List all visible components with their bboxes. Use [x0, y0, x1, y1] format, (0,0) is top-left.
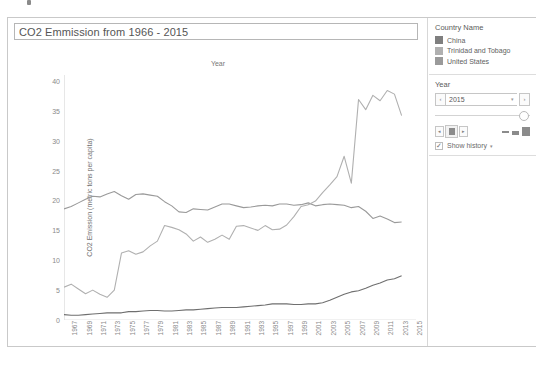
legend-item-label: China — [447, 37, 465, 44]
x-tick-label: 2009 — [373, 321, 380, 335]
x-tick-label: 1977 — [143, 321, 150, 335]
chart-title-bar[interactable]: CO2 Emmission from 1966 - 2015 — [14, 23, 418, 40]
y-tick-label: 35 — [52, 107, 60, 114]
stray-mark — [27, 0, 31, 5]
x-tick-label: 1979 — [157, 321, 164, 335]
series-line-united-states — [64, 192, 402, 223]
x-tick-label: 1985 — [200, 321, 207, 335]
plot-area: 0510152025303540 — [64, 75, 416, 320]
y-tick-label: 10 — [52, 257, 60, 264]
page-title: CO2 Emmission from 1966 - 2015 — [19, 26, 188, 38]
speed-fast-icon[interactable] — [522, 127, 530, 136]
x-tick-label: 1983 — [186, 321, 193, 335]
year-value: 2015 — [449, 96, 465, 103]
x-tick-label: 1991 — [244, 321, 251, 335]
legend-item[interactable]: United States — [435, 57, 530, 65]
y-tick-label: 0 — [56, 317, 60, 324]
x-tick-label: 1999 — [301, 321, 308, 335]
legend-item-label: United States — [447, 58, 489, 65]
x-tick-label: 2003 — [330, 321, 337, 335]
x-tick-label: 2007 — [359, 321, 366, 335]
slider-handle[interactable] — [519, 111, 529, 121]
y-tick-label: 20 — [52, 197, 60, 204]
x-tick-label: 2015 — [416, 321, 423, 335]
x-tick-label: 1967 — [71, 321, 78, 335]
x-tick-label: 1973 — [114, 321, 121, 335]
speed-medium-icon[interactable] — [512, 131, 519, 135]
side-panel: Country Name ChinaTrinidad and TobagoUni… — [429, 18, 536, 346]
year-filter-title: Year — [435, 80, 530, 89]
legend-item[interactable]: Trinidad and Tobago — [435, 47, 530, 55]
playback-buttons: ◂ ▸ — [435, 125, 468, 138]
year-selector[interactable]: ‹ 2015 ▾ › — [435, 93, 530, 106]
x-tick-label: 1981 — [172, 321, 179, 335]
x-tick-label: 2001 — [315, 321, 322, 335]
chart-panel: CO2 Emmission from 1966 - 2015 Year CO2 … — [8, 18, 428, 346]
x-tick-label: 1989 — [229, 321, 236, 335]
year-filter-card: Year ‹ 2015 ▾ › ◂ ▸ — [429, 75, 536, 156]
x-axis-title: Year — [8, 60, 428, 67]
legend-item-label: Trinidad and Tobago — [447, 47, 510, 54]
legend-items: ChinaTrinidad and TobagoUnited States — [435, 36, 530, 65]
y-tick-label: 25 — [52, 167, 60, 174]
year-prev-button[interactable]: ‹ — [435, 93, 446, 106]
x-tick-label: 1987 — [215, 321, 222, 335]
line-chart-svg — [64, 75, 416, 320]
x-tick-label: 1995 — [272, 321, 279, 335]
x-tick-label: 2005 — [344, 321, 351, 335]
y-tick-label: 30 — [52, 137, 60, 144]
show-history-caret-icon: ▾ — [490, 143, 493, 149]
series-line-china — [64, 276, 402, 315]
y-tick-label: 40 — [52, 77, 60, 84]
legend-title: Country Name — [435, 23, 530, 32]
x-tick-label: 1997 — [287, 321, 294, 335]
legend-item[interactable]: China — [435, 36, 530, 44]
series-line-trinidad-and-tobago — [64, 91, 402, 298]
step-back-button[interactable]: ◂ — [435, 126, 444, 137]
legend-swatch — [435, 57, 443, 65]
y-tick-label: 15 — [52, 227, 60, 234]
x-tick-labels: 1967196919711973197519771979198119831985… — [64, 321, 416, 355]
speed-slow-icon[interactable] — [502, 131, 509, 133]
x-tick-label: 1971 — [100, 321, 107, 335]
year-next-button[interactable]: › — [519, 93, 530, 106]
stop-button[interactable] — [445, 125, 458, 138]
show-history-checkbox[interactable]: ✓ — [435, 142, 443, 150]
x-tick-label: 1975 — [129, 321, 136, 335]
legend-swatch — [435, 36, 443, 44]
x-tick-label: 2013 — [402, 321, 409, 335]
x-tick-label: 1993 — [258, 321, 265, 335]
legend-card: Country Name ChinaTrinidad and TobagoUni… — [429, 18, 536, 75]
chevron-down-icon: ▾ — [511, 96, 514, 102]
playback-controls: ◂ ▸ — [435, 125, 530, 138]
year-dropdown[interactable]: 2015 ▾ — [446, 93, 517, 106]
slider-track — [435, 115, 530, 116]
speed-controls — [502, 127, 530, 136]
stop-icon — [449, 128, 455, 135]
year-slider[interactable] — [435, 110, 530, 122]
y-tick-label: 5 — [56, 287, 60, 294]
x-tick-label: 1969 — [86, 321, 93, 335]
step-forward-button[interactable]: ▸ — [459, 126, 468, 137]
x-tick-label: 2011 — [387, 321, 394, 335]
show-history-row[interactable]: ✓ Show history ▾ — [435, 142, 530, 150]
visualization-frame: CO2 Emmission from 1966 - 2015 Year CO2 … — [7, 17, 536, 347]
show-history-label: Show history — [447, 142, 487, 149]
legend-swatch — [435, 47, 443, 55]
